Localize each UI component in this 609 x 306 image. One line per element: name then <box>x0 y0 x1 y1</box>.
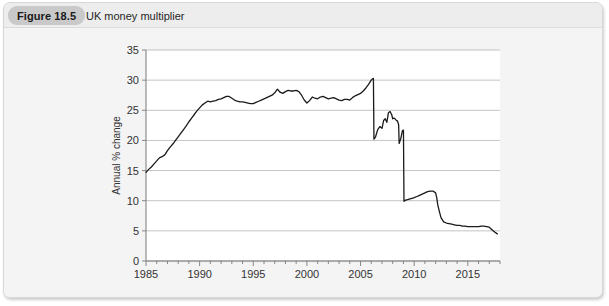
figure-body: 0510152025303519851990199520002005201020… <box>4 28 602 297</box>
y-axis-tick-label: 5 <box>133 225 139 237</box>
y-axis-tick-label: 0 <box>133 255 139 267</box>
x-axis-tick-label: 2010 <box>402 268 426 280</box>
y-axis-tick-label: 30 <box>127 74 139 86</box>
y-axis-tick-label: 20 <box>127 134 139 146</box>
x-axis-tick-label: 2005 <box>348 268 372 280</box>
x-axis-tick-label: 2015 <box>456 268 480 280</box>
x-axis-tick-label: 1985 <box>134 268 158 280</box>
y-axis-tick-label: 10 <box>127 195 139 207</box>
money-multiplier-line-chart: 0510152025303519851990199520002005201020… <box>4 28 603 298</box>
y-axis-title: Annual % change <box>111 116 122 195</box>
figure-card: Figure 18.5 UK money multiplier 05101520… <box>3 2 603 298</box>
plot-area <box>146 50 500 261</box>
figure-header: Figure 18.5 UK money multiplier <box>4 3 602 28</box>
figure-title: UK money multiplier <box>86 6 184 25</box>
x-axis-tick-label: 1995 <box>241 268 265 280</box>
y-axis-tick-label: 25 <box>127 104 139 116</box>
figure-number-badge: Figure 18.5 <box>8 6 85 25</box>
x-axis-tick-label: 2000 <box>295 268 319 280</box>
x-axis-tick-label: 1990 <box>187 268 211 280</box>
y-axis-tick-label: 35 <box>127 44 139 56</box>
y-axis-tick-label: 15 <box>127 165 139 177</box>
